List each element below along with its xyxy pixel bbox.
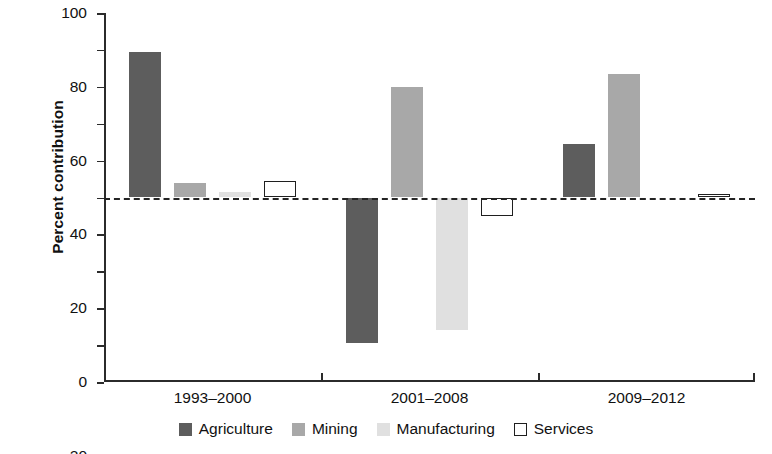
legend-swatch-manufacturing-icon (377, 423, 390, 436)
y-axis-tick-label: −20 (61, 447, 87, 454)
legend-label: Agriculture (199, 420, 273, 438)
bar-chart-figure: Percent contribution 100806040200−20−40−… (0, 0, 772, 454)
y-axis-tick-label: 100 (61, 4, 87, 22)
bar-agriculture-1993–2000 (129, 52, 161, 198)
bar-services-1993–2000 (264, 181, 296, 198)
y-axis-tick-label: 60 (70, 152, 87, 170)
y-axis-title: Percent contribution (49, 27, 67, 327)
legend-label: Mining (312, 420, 358, 438)
y-axis-tick: −80 (97, 345, 104, 347)
legend-swatch-agriculture-icon (179, 423, 192, 436)
y-axis-tick-label: 40 (70, 225, 87, 243)
legend-item-manufacturing: Manufacturing (377, 420, 495, 438)
x-axis-category-label: 2009–2012 (608, 389, 686, 407)
x-axis-category-label: 1993–2000 (174, 389, 252, 407)
y-axis-tick: 40 (97, 124, 104, 126)
x-axis-line (104, 380, 755, 382)
x-axis-tick (321, 373, 323, 382)
bar-manufacturing-2001–2008 (436, 198, 468, 331)
zero-baseline (104, 198, 755, 200)
legend-label: Services (534, 420, 593, 438)
y-axis-tick: −60 (97, 308, 104, 310)
y-axis-tick: 100 (97, 13, 104, 15)
y-axis-tick: −40 (97, 271, 104, 273)
y-axis-tick-label: 20 (70, 299, 87, 317)
y-axis-tick: 60 (97, 87, 104, 89)
x-axis-right-cap (753, 373, 755, 382)
y-axis-tick: 0 (97, 198, 104, 200)
plot-area: 100806040200−20−40−60−80−100 (104, 13, 755, 382)
y-axis-tick: −100 (97, 382, 104, 384)
y-axis-tick: 20 (97, 161, 104, 163)
bar-agriculture-2009–2012 (563, 144, 595, 198)
bar-services-2001–2008 (481, 198, 513, 216)
legend-item-agriculture: Agriculture (179, 420, 273, 438)
chart-legend: AgricultureMiningManufacturingServices (0, 420, 772, 438)
bar-mining-2009–2012 (608, 74, 640, 198)
x-axis-category-label: 2001–2008 (391, 389, 469, 407)
legend-item-mining: Mining (292, 420, 358, 438)
x-axis-tick (538, 373, 540, 382)
bar-mining-2001–2008 (391, 87, 423, 198)
y-axis-tick-label: 80 (70, 78, 87, 96)
bar-mining-1993–2000 (174, 183, 206, 198)
y-axis-tick: 80 (97, 50, 104, 52)
legend-label: Manufacturing (397, 420, 495, 438)
legend-swatch-services-icon (514, 423, 527, 436)
legend-item-services: Services (514, 420, 593, 438)
bar-agriculture-2001–2008 (346, 198, 378, 344)
y-axis-tick: −20 (97, 234, 104, 236)
legend-swatch-mining-icon (292, 423, 305, 436)
y-axis-tick-label: 0 (78, 373, 87, 391)
